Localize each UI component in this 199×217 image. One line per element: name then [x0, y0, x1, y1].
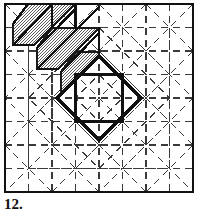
figure-root: 12. — [0, 0, 199, 217]
figure-caption: 12. — [4, 196, 23, 213]
quilt-block-diagram — [0, 0, 199, 217]
